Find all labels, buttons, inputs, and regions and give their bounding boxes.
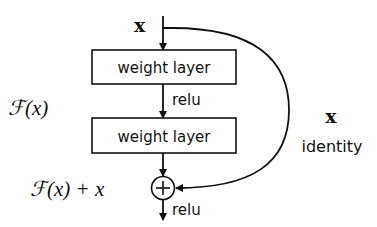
input-label: x [134,14,146,36]
residual-block-diagram: x weight layer relu weight layer relu ℱ(… [0,0,377,227]
weight-layer-2: weight layer [92,118,236,153]
weight-layer-1: weight layer [92,50,236,84]
output-label: ℱ(x) + x [30,177,105,201]
shortcut-variable-label: x [325,105,337,127]
weight-layer-1-label: weight layer [118,59,212,77]
residual-function-label: ℱ(x) [8,96,48,120]
relu-label-1: relu [172,91,201,109]
relu-label-2: relu [172,201,201,219]
sum-node-icon [152,177,175,200]
shortcut-type-label: identity [301,137,362,156]
weight-layer-2-label: weight layer [118,128,212,146]
